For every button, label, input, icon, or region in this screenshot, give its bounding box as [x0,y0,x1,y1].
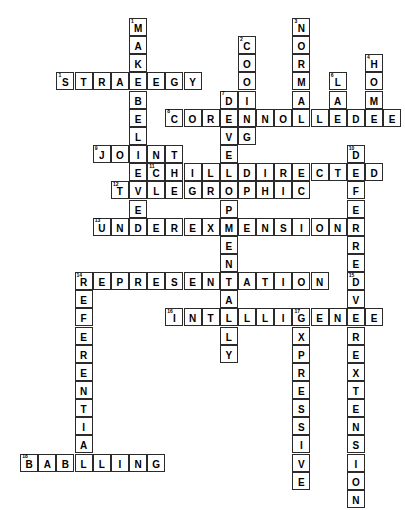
crossword-cell: T [220,272,238,290]
crossword-cell: L [93,454,111,472]
crossword-cell: E [220,145,238,163]
crossword-cell: E [93,272,111,290]
cell-letter: I [293,436,309,452]
cell-letter: R [94,73,110,89]
cell-letter: B [57,455,73,471]
cell-letter: D [130,219,146,235]
cell-letter: R [203,110,219,126]
cell-letter: H [166,164,182,180]
crossword-cell: D [365,163,383,181]
crossword-cell: P [220,200,238,218]
cell-letter: I [185,164,201,180]
cell-letter: E [94,273,110,289]
cell-letter: I [293,219,309,235]
crossword-cell: E [292,381,310,399]
crossword-cell: I [238,91,256,109]
clue-number: 9 [95,146,98,151]
cell-letter: T [76,400,92,416]
crossword-cell: 6L [329,72,347,90]
crossword-cell: O [274,109,292,127]
cell-letter: L [257,309,273,325]
cell-letter: H [257,182,273,198]
crossword-cell: X [347,363,365,381]
cell-letter: V [348,291,364,307]
crossword-cell: T [75,72,93,90]
crossword-cell: I [292,435,310,453]
cell-letter: I [348,455,364,471]
crossword-cell: R [93,72,111,90]
cell-letter: L [221,328,237,344]
cell-letter: X [348,364,364,380]
crossword-cell: N [220,254,238,272]
clue-number: 18 [22,454,28,459]
cell-letter: E [185,219,201,235]
crossword-cell: L [129,127,147,145]
cell-letter: I [130,146,146,162]
crossword-cell: D [238,163,256,181]
cell-letter: I [76,418,92,434]
crossword-cell: 3N [292,18,310,36]
crossword-cell: R [292,54,310,72]
crossword-cell: I [129,145,147,163]
cell-letter: G [148,455,164,471]
crossword-cell: E [329,109,347,127]
cell-letter: N [112,219,128,235]
cell-letter: R [166,219,182,235]
cell-letter: X [203,219,219,235]
cell-letter: F [348,182,364,198]
crossword-cell: T [329,163,347,181]
cell-letter: E [148,273,164,289]
cell-letter: F [76,309,92,325]
cell-letter: N [348,418,364,434]
cell-letter: N [76,382,92,398]
clue-number: 14 [77,273,83,278]
cell-letter: D [348,110,364,126]
cell-letter: O [293,273,309,289]
crossword-cell: 2C [238,36,256,54]
crossword-cell: I [111,454,129,472]
crossword-cell: N [311,272,329,290]
crossword-cell: R [347,218,365,236]
crossword-cell: E [75,290,93,308]
crossword-cell: S [292,399,310,417]
cell-letter: Y [185,73,201,89]
cell-letter: M [221,219,237,235]
crossword-cell: D [129,218,147,236]
cell-letter: O [366,73,382,89]
crossword-cell: K [129,54,147,72]
crossword-cell: A [75,435,93,453]
crossword-cell: L [292,109,310,127]
cell-letter: O [312,219,328,235]
cell-letter: R [293,55,309,71]
cell-letter: M [293,73,309,89]
crossword-cell: E [383,109,401,127]
crossword-cell: F [75,308,93,326]
crossword-cell: I [274,308,292,326]
cell-letter: N [312,273,328,289]
crossword-cell: I [184,163,202,181]
crossword-cell: B [129,91,147,109]
cell-letter: N [130,455,146,471]
cell-letter: L [94,455,110,471]
cell-letter: I [275,309,291,325]
clue-number: 11 [149,164,154,169]
cell-letter: R [275,164,291,180]
cell-letter: R [130,273,146,289]
cell-letter: L [203,164,219,180]
crossword-cell: M [220,218,238,236]
crossword-cell: R [347,236,365,254]
cell-letter: O [275,110,291,126]
cell-letter: T [257,273,273,289]
crossword-cell: E [75,327,93,345]
clue-number: 6 [331,73,334,78]
crossword-cell: D [347,109,365,127]
cell-letter: A [239,273,255,289]
cell-letter: V [293,455,309,471]
crossword-cell: Y [220,345,238,363]
clue-number: 16 [167,309,173,314]
crossword-cell: O [292,36,310,54]
cell-letter: I [239,92,255,108]
clue-number: 2 [240,37,243,42]
cell-letter: E [130,201,146,217]
clue-number: 8 [167,109,170,114]
